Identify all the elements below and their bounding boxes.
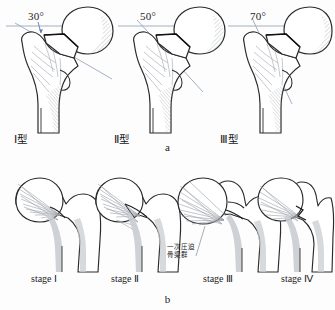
panel-a-illustration xyxy=(0,0,335,155)
femur-diagram-type-3 xyxy=(228,7,332,133)
panel-a-pauwels-classification: 30° 50° 70° Ⅰ型 Ⅱ型 Ⅲ型 xyxy=(0,0,335,155)
medial-cortex-shade-stage-4 xyxy=(284,214,300,272)
figure-page: 30° 50° 70° Ⅰ型 Ⅱ型 Ⅲ型 a xyxy=(0,0,335,310)
panel-letter-a: a xyxy=(0,141,335,153)
angle-indicator-arrowhead-1 xyxy=(39,30,43,33)
panel-letter-b: b xyxy=(0,293,335,305)
angle-label-type-3: 70° xyxy=(250,10,266,22)
angle-label-type-1: 30° xyxy=(28,10,44,22)
medial-cortex-shade-stage-3 xyxy=(226,214,242,272)
annotation-primary-compressive-trabeculae: 一次圧迫 骨梁群 xyxy=(167,243,195,259)
stage-label-3: stage Ⅲ xyxy=(203,273,233,284)
femur-diagram-type-1 xyxy=(6,7,113,133)
panel-b-garden-stages: 一次圧迫 骨梁群 stage Ⅰ stage Ⅱ stage Ⅲ stage Ⅳ xyxy=(0,160,335,310)
femur-diagram-stage-1 xyxy=(16,178,101,272)
panel-b-illustration xyxy=(0,160,335,310)
angle-label-type-2: 50° xyxy=(140,10,156,22)
stage-label-1: stage Ⅰ xyxy=(31,273,57,284)
stage-label-4: stage Ⅳ xyxy=(281,273,313,284)
annotation-leader-line xyxy=(196,226,205,256)
femur-diagram-type-2 xyxy=(118,7,225,133)
annotation-line-2: 骨梁群 xyxy=(167,251,195,259)
stage-label-2: stage Ⅱ xyxy=(111,273,139,284)
annotation-line-1: 一次圧迫 xyxy=(167,243,195,251)
